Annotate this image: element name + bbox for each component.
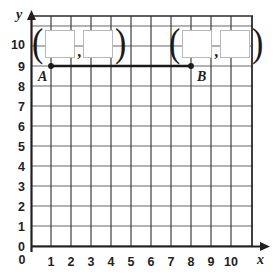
coordinate-plane-worksheet: 0 1 2 3 4 5 6 7 8 9 10 0 1 2 3 4 5 6 7 8…	[0, 0, 278, 279]
x-tick-6: 6	[141, 256, 161, 269]
point-b-y-input[interactable]	[220, 30, 250, 58]
x-tick-2: 2	[61, 256, 81, 269]
y-tick-9: 9	[0, 61, 25, 74]
point-a-label: A	[38, 70, 47, 84]
y-tick-6: 6	[0, 121, 25, 134]
x-tick-0: 0	[12, 254, 32, 267]
x-tick-1: 1	[41, 256, 61, 269]
y-tick-0: 0	[0, 241, 25, 254]
point-b-label: B	[197, 70, 206, 84]
x-tick-10: 10	[219, 256, 243, 269]
y-tick-7: 7	[0, 101, 25, 114]
y-axis-label: y	[16, 8, 22, 22]
point-b-coordinates[interactable]: ( , )	[167, 27, 266, 61]
y-tick-4: 4	[0, 161, 25, 174]
x-tick-7: 7	[161, 256, 181, 269]
point-b-x-input[interactable]	[182, 30, 212, 58]
y-tick-8: 8	[0, 81, 25, 94]
y-tick-10: 10	[0, 39, 25, 52]
point-a-x-input[interactable]	[45, 30, 75, 58]
point-a-marker	[48, 63, 54, 69]
point-a-coordinates[interactable]: ( , )	[30, 27, 129, 61]
y-tick-2: 2	[0, 201, 25, 214]
point-b-marker	[188, 63, 194, 69]
x-tick-5: 5	[121, 256, 141, 269]
point-a-y-input[interactable]	[83, 30, 113, 58]
x-tick-4: 4	[101, 256, 121, 269]
y-tick-5: 5	[0, 141, 25, 154]
x-tick-9: 9	[201, 256, 221, 269]
y-tick-3: 3	[0, 181, 25, 194]
x-axis-label: x	[257, 253, 264, 267]
x-tick-8: 8	[181, 256, 201, 269]
x-tick-3: 3	[81, 256, 101, 269]
y-tick-1: 1	[0, 221, 25, 234]
